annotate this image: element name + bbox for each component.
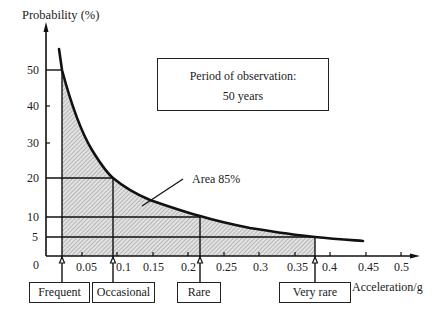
category-very-rare: Very rare — [279, 282, 351, 303]
observation-period-box: Period of observation: 50 years — [157, 58, 329, 111]
x-tick-0.35: 0.35 — [287, 260, 308, 274]
x-tick-0.2: 0.2 — [181, 260, 196, 274]
x-axis-label: Acceleration/g — [352, 280, 423, 294]
x-tick-0.5: 0.5 — [394, 260, 409, 274]
category-rare: Rare — [177, 282, 221, 303]
y-tick-50: 50 — [27, 63, 39, 77]
y-tick-10: 10 — [27, 210, 39, 224]
y-tick-5: 5 — [32, 230, 38, 244]
category-frequent: Frequent — [29, 282, 90, 303]
observation-period-label: Period of observation: — [158, 69, 328, 84]
category-occasional: Occasional — [92, 282, 155, 303]
x-tick-0.1: 0.1 — [116, 260, 131, 274]
x-tick-0.15: 0.15 — [143, 260, 164, 274]
y-tick-0: 0 — [33, 258, 39, 272]
x-tick-0.45: 0.45 — [358, 260, 379, 274]
y-tick-20: 20 — [27, 171, 39, 185]
x-tick-0.3: 0.3 — [253, 260, 268, 274]
y-tick-30: 30 — [27, 136, 39, 150]
y-axis-label: Probability (%) — [22, 8, 99, 22]
y-axis-arrow — [44, 22, 49, 32]
area-leader-line — [142, 179, 183, 206]
area-annotation: Area 85% — [192, 172, 240, 186]
x-tick-0.05: 0.05 — [76, 260, 97, 274]
observation-period-value: 50 years — [158, 89, 328, 104]
x-axis-arrow — [410, 254, 420, 259]
x-tick-0.25: 0.25 — [216, 260, 237, 274]
y-tick-40: 40 — [27, 99, 39, 113]
x-tick-0.4: 0.4 — [322, 260, 337, 274]
